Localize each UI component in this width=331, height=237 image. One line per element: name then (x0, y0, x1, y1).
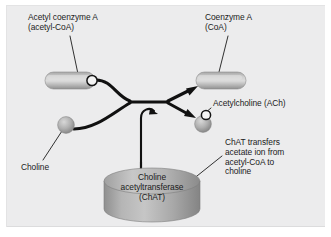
label-enzyme-chat: Choline acetyltransferase (ChAT) (104, 173, 200, 202)
acetate-group-marker-ach (201, 110, 210, 119)
molecule-acetyl-coa (45, 72, 97, 89)
arrow-to-coenzyme-a (168, 86, 198, 101)
label-acetylcholine: Acetylcholine (ACh) (213, 99, 286, 109)
arrow-enzyme-catalysis (141, 109, 158, 177)
label-chat-description: ChAT transfers acetate ion from acetyl-C… (225, 138, 284, 177)
acetate-group-marker (87, 75, 97, 85)
leader-line-acetyl-coa (70, 36, 78, 74)
leader-line-choline (43, 131, 62, 160)
leader-line-coenzyme-a (219, 36, 228, 72)
diagram-canvas: Acetyl coenzyme A (acetyl-CoA) Coenzyme … (0, 0, 331, 237)
label-acetyl-coa: Acetyl coenzyme A (acetyl-CoA) (28, 13, 98, 33)
label-choline: Choline (21, 163, 49, 173)
label-coenzyme-a: Coenzyme A (CoA) (205, 13, 252, 33)
arrow-to-acetylcholine (168, 103, 196, 118)
arrow-path-acetyl-coa (96, 80, 130, 101)
arrow-path-choline (74, 103, 130, 129)
molecule-choline (58, 117, 75, 134)
molecule-acetylcholine (195, 110, 212, 132)
molecule-coenzyme-a (196, 72, 246, 89)
